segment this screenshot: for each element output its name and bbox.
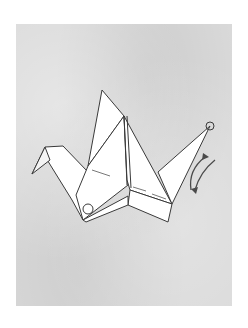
body-circle-marker <box>83 204 93 214</box>
origami-crane-illustration <box>0 0 248 328</box>
